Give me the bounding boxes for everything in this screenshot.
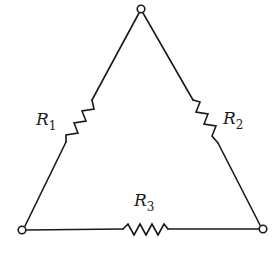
r3-resistor-icon: [123, 224, 168, 235]
wire-top-to-r1: [92, 13, 139, 100]
branch-r3: [26, 224, 259, 235]
r2-resistor-icon: [193, 100, 218, 143]
r1-label: R1: [35, 109, 56, 133]
r2-label: R2: [222, 108, 243, 132]
wire-bottom-left-to-r3: [26, 229, 123, 230]
terminal-node-bottom-right: [259, 225, 267, 233]
r3-label: R3: [133, 190, 154, 214]
wire-top-to-r2: [143, 13, 193, 100]
terminal-node-bottom-left: [18, 226, 26, 234]
terminal-node-top: [137, 5, 145, 13]
wire-r1-to-bottom-left: [25, 142, 66, 226]
delta-circuit-diagram: R1 R2 R3: [0, 0, 278, 256]
wire-r2-to-bottom-right: [218, 143, 260, 225]
r1-resistor-icon: [66, 100, 94, 142]
